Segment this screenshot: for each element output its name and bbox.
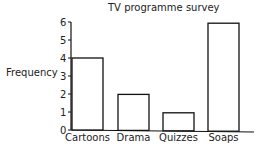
y-tick-label: 3 — [60, 71, 66, 82]
y-tick-label: 4 — [60, 53, 66, 64]
y-tick-label: 2 — [60, 89, 66, 100]
chart-plot: 0123456 — [0, 0, 258, 148]
y-tick-label: 1 — [60, 107, 66, 118]
bar-cartoons — [72, 58, 103, 130]
bars — [72, 23, 239, 131]
y-ticks: 0123456 — [60, 17, 71, 136]
y-tick-label: 5 — [60, 35, 66, 46]
bar-soaps — [208, 23, 239, 131]
y-tick-label: 6 — [60, 17, 66, 28]
bar-drama — [118, 94, 149, 130]
bar-quizzes — [163, 113, 194, 131]
x-tick-label: Soaps — [194, 132, 254, 143]
